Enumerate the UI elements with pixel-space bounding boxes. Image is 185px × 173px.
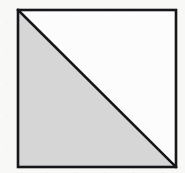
square-with-diagonal-figure [0,0,185,173]
figure-canvas [0,0,185,173]
